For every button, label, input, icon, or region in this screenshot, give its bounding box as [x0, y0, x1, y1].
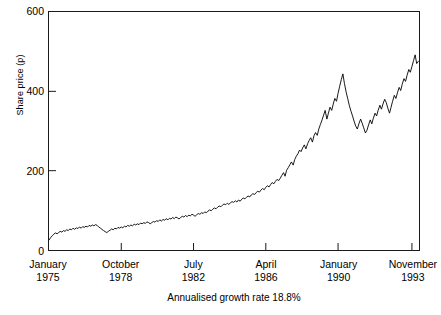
y-tick-label: 0	[10, 246, 44, 256]
x-tick-year: 1993	[368, 271, 441, 284]
x-axis-tick-labels: January1975October1978July1982April1986J…	[48, 258, 420, 294]
y-tick-label: 600	[10, 6, 44, 16]
plot-area	[48, 11, 420, 251]
y-axis-tick-marks	[49, 91, 56, 170]
y-tick-label: 200	[10, 166, 44, 176]
x-axis-tick-marks	[121, 243, 412, 250]
x-tick-label: November1993	[368, 258, 441, 284]
share-price-line-chart	[49, 12, 419, 250]
chart-caption: Annualised growth rate 18.8%	[48, 292, 420, 303]
share-price-line	[49, 55, 418, 240]
chart-figure: Share price (p) 0200400600 January1975Oc…	[0, 0, 441, 315]
x-tick-month: November	[368, 258, 441, 271]
y-tick-label: 400	[10, 86, 44, 96]
